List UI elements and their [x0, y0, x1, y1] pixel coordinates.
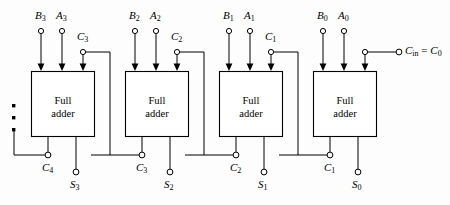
terminal-b2 — [132, 28, 137, 33]
label-c3-out-sub: 3 — [143, 166, 147, 175]
terminal-c2-out — [233, 152, 239, 158]
input-arrow-a1 — [247, 64, 254, 72]
input-arrow-b0 — [320, 64, 327, 72]
label-cin-equals: = — [419, 44, 431, 56]
label-b0: B0 — [317, 10, 328, 23]
label-c2-in: C2 — [171, 31, 182, 44]
input-arrow-cin — [362, 64, 369, 72]
label-a0-text: A — [338, 9, 345, 21]
continuation-dot-2 — [12, 116, 15, 119]
box-label-line1: Full — [337, 95, 354, 106]
box-label-line1: Full — [243, 95, 260, 106]
continuation-dot-3 — [12, 128, 15, 131]
continuation-dots — [12, 104, 15, 131]
label-cin-c0-text: C — [430, 44, 437, 56]
terminal-b1 — [226, 28, 231, 33]
label-c3-in-sub: 3 — [84, 35, 88, 44]
label-b1: B1 — [223, 10, 234, 23]
label-s1: S1 — [258, 179, 268, 192]
label-s0-sub: 0 — [358, 183, 362, 192]
label-a3-sub: 3 — [63, 14, 67, 23]
label-b2: B2 — [129, 10, 140, 23]
box-label-line2: adder — [239, 108, 262, 119]
label-c3-in: C3 — [77, 31, 88, 44]
label-c1-out: C1 — [324, 162, 335, 175]
terminal-c3-in — [80, 49, 85, 54]
continuation-dot-1 — [12, 104, 15, 107]
terminal-c1-out — [327, 152, 333, 158]
terminal-b3 — [38, 28, 43, 33]
label-b0-sub: 0 — [324, 14, 328, 23]
label-c1-in-sub: 1 — [272, 35, 276, 44]
terminal-s0 — [355, 169, 361, 175]
box-label-line2: adder — [51, 108, 74, 119]
input-arrow-b3 — [38, 64, 45, 72]
full-adder-box-label-3: Full adder — [40, 94, 86, 120]
terminal-c3-out — [139, 152, 145, 158]
label-a2: A2 — [150, 10, 161, 23]
terminal-a3 — [59, 28, 64, 33]
terminal-b0 — [320, 28, 325, 33]
full-adder-box-label-0: Full adder — [322, 94, 368, 120]
label-c2-out-sub: 2 — [237, 166, 241, 175]
label-s0: S0 — [352, 179, 362, 192]
full-adder-box-label-2: Full adder — [134, 94, 180, 120]
label-a3-text: A — [56, 9, 63, 21]
label-a1: A1 — [244, 10, 255, 23]
label-s1-sub: 1 — [264, 183, 268, 192]
box-label-line1: Full — [149, 95, 166, 106]
input-arrow-a2 — [153, 64, 160, 72]
label-b3-text: B — [35, 9, 42, 21]
label-a3: A3 — [56, 10, 67, 23]
terminal-cin — [396, 49, 402, 55]
label-a0: A0 — [338, 10, 349, 23]
label-b1-text: B — [223, 9, 230, 21]
terminal-c4 — [45, 152, 51, 158]
label-s3-sub: 3 — [76, 183, 80, 192]
input-arrow-b2 — [132, 64, 139, 72]
label-b1-sub: 1 — [230, 14, 234, 23]
input-arrow-b1 — [226, 64, 233, 72]
label-a2-text: A — [150, 9, 157, 21]
terminal-cin-node — [362, 49, 367, 54]
terminal-s2 — [167, 169, 173, 175]
label-c2-out: C2 — [230, 162, 241, 175]
box-label-line2: adder — [333, 108, 356, 119]
figure-canvas: Full adder Full adder Full adder Full ad… — [0, 0, 450, 205]
terminal-a2 — [153, 28, 158, 33]
label-b0-text: B — [317, 9, 324, 21]
terminal-a1 — [247, 28, 252, 33]
label-b3-sub: 3 — [42, 14, 46, 23]
input-arrow-c2 — [174, 64, 181, 72]
terminal-s3 — [73, 169, 79, 175]
label-a1-text: A — [244, 9, 251, 21]
label-b2-sub: 2 — [136, 14, 140, 23]
label-b2-text: B — [129, 9, 136, 21]
input-arrow-a3 — [59, 64, 66, 72]
label-c3-out: C3 — [136, 162, 147, 175]
label-c2-in-sub: 2 — [178, 35, 182, 44]
label-b3: B3 — [35, 10, 46, 23]
box-label-line2: adder — [145, 108, 168, 119]
input-arrow-c1 — [268, 64, 275, 72]
label-cin-c0-sub: 0 — [438, 49, 442, 58]
label-c4: C4 — [42, 162, 53, 175]
box-label-line1: Full — [55, 95, 72, 106]
label-a1-sub: 1 — [251, 14, 255, 23]
terminal-c1-in — [268, 49, 273, 54]
input-arrow-c3 — [80, 64, 87, 72]
label-a2-sub: 2 — [157, 14, 161, 23]
full-adder-box-label-1: Full adder — [228, 94, 274, 120]
label-c1-in: C1 — [265, 31, 276, 44]
terminal-a0 — [341, 28, 346, 33]
terminal-s1 — [261, 169, 267, 175]
label-cin: Cin = C0 — [405, 45, 442, 58]
label-s2: S2 — [164, 179, 174, 192]
input-arrow-a0 — [341, 64, 348, 72]
label-c1-out-sub: 1 — [331, 166, 335, 175]
label-s2-sub: 2 — [170, 183, 174, 192]
label-s3: S3 — [70, 179, 80, 192]
terminal-c2-in — [174, 49, 179, 54]
label-c4-sub: 4 — [49, 166, 53, 175]
label-a0-sub: 0 — [345, 14, 349, 23]
